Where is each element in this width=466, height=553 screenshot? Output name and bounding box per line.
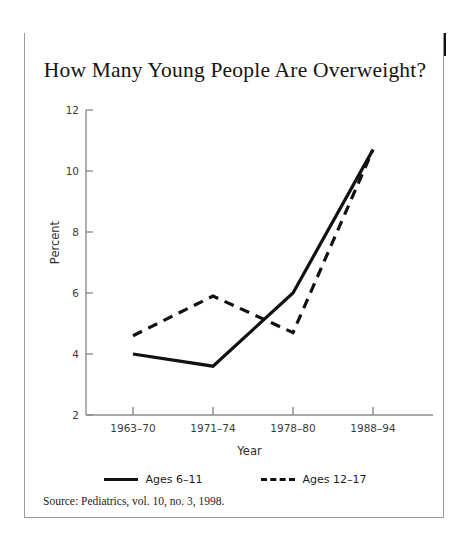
x-axis-ticks: 1963–701971–741978–801988–94 (110, 407, 396, 434)
legend-item-series-1: Ages 12–17 (261, 473, 367, 486)
legend-item-series-0: Ages 6–11 (104, 473, 203, 486)
y-tick-label: 10 (66, 165, 79, 177)
y-tick-label: 4 (72, 348, 79, 360)
y-tick-label: 2 (72, 409, 79, 421)
line-chart-svg: 24681012 1963–701971–741978–801988–94 Ye… (25, 33, 445, 518)
legend-label-series-0: Ages 6–11 (146, 473, 203, 486)
series-line-1 (133, 150, 373, 336)
y-tick-label: 8 (72, 226, 79, 238)
x-tick-label: 1971–74 (190, 422, 236, 434)
chart-axes (86, 110, 433, 415)
chart-legend: Ages 6–11 Ages 12–17 (25, 473, 445, 486)
x-tick-label: 1963–70 (110, 422, 155, 434)
series-line-0 (133, 150, 373, 367)
legend-swatch-solid-icon (104, 478, 138, 481)
x-axis-title: Year (236, 444, 262, 458)
y-axis-ticks: 24681012 (66, 104, 93, 421)
legend-label-series-1: Ages 12–17 (303, 473, 367, 486)
source-note: Source: Pediatrics, vol. 10, no. 3, 1998… (43, 495, 224, 507)
x-tick-label: 1988–94 (350, 422, 396, 434)
y-tick-label: 6 (72, 287, 79, 299)
chart-series (133, 150, 373, 367)
chart-card: How Many Young People Are Overweight? 24… (24, 33, 444, 518)
chart-plot-area: 24681012 1963–701971–741978–801988–94 Ye… (25, 33, 445, 518)
y-axis-title: Percent (48, 220, 62, 264)
legend-swatch-dashed-icon (261, 478, 295, 481)
y-tick-label: 12 (66, 104, 79, 116)
x-tick-label: 1978–80 (270, 422, 315, 434)
